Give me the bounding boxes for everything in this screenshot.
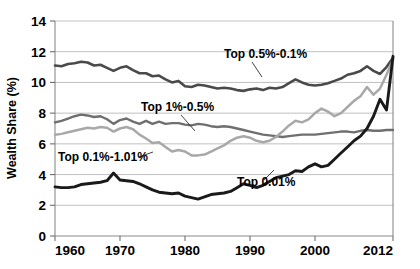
x-tick-label-1980: 1980 — [170, 243, 200, 258]
x-tick-label-1970: 1970 — [105, 243, 135, 258]
y-tick-label-12: 12 — [31, 45, 46, 60]
series-label-top-0-1-0-01: Top 0.1%-1.01% — [58, 150, 148, 164]
leader-line-top-0-5-0-1 — [252, 62, 262, 77]
x-tick-label-2012: 2012 — [363, 243, 393, 258]
series-line-top-1-0-5 — [55, 115, 393, 137]
series-line-top-0-5-0-1 — [55, 58, 393, 91]
x-tick-label-1990: 1990 — [235, 243, 265, 258]
x-tick-label-2000: 2000 — [300, 243, 330, 258]
x-axis-ticks: 196019701980199020002012 — [55, 236, 393, 258]
y-tick-label-2: 2 — [38, 198, 46, 213]
y-tick-label-8: 8 — [38, 106, 46, 121]
series-label-top-0-5-0-1: Top 0.5%-0.1% — [224, 47, 307, 61]
y-tick-label-4: 4 — [38, 168, 46, 183]
wealth-share-line-chart: 02468101214 196019701980199020002012 Top… — [0, 0, 420, 269]
y-tick-label-10: 10 — [31, 75, 46, 90]
x-tick-label-1960: 1960 — [55, 243, 85, 258]
y-tick-label-0: 0 — [38, 229, 46, 244]
series-label-top-1-0-5: Top 1%-0.5% — [141, 100, 214, 114]
y-tick-label-6: 6 — [38, 137, 46, 152]
series-line-top-0-1-0-01 — [55, 59, 393, 155]
chart-canvas: 02468101214 196019701980199020002012 Top… — [0, 0, 420, 269]
y-tick-label-14: 14 — [31, 14, 47, 29]
y-axis-ticks: 02468101214 — [31, 14, 55, 244]
data-series-group — [55, 56, 393, 199]
y-axis-title: Wealth Share (%) — [5, 77, 19, 179]
series-label-top-0-01: Top 0.01% — [237, 175, 296, 189]
caption-strip — [0, 261, 420, 269]
